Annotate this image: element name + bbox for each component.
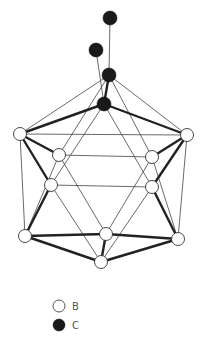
legend: B C bbox=[53, 300, 79, 331]
carbon-atom bbox=[102, 68, 116, 82]
legend-boron-label: B bbox=[72, 301, 79, 312]
carbon-atom bbox=[103, 11, 117, 25]
legend-carbon-symbol bbox=[53, 319, 65, 331]
boron-atom bbox=[172, 233, 185, 246]
boron-atom bbox=[53, 149, 66, 162]
carborane-structure-diagram: B C bbox=[0, 0, 205, 342]
carbon-atom bbox=[89, 43, 103, 57]
boron-atom bbox=[14, 128, 27, 141]
carbon-atom bbox=[97, 97, 111, 111]
boron-atom bbox=[146, 181, 159, 194]
boron-atom bbox=[146, 151, 159, 164]
legend-boron-symbol bbox=[53, 300, 65, 312]
thin-bonds bbox=[20, 18, 187, 262]
boron-atom bbox=[45, 179, 58, 192]
boron-atom bbox=[95, 256, 108, 269]
boron-atom bbox=[100, 228, 113, 241]
boron-atom bbox=[181, 129, 194, 142]
legend-carbon-label: C bbox=[72, 320, 79, 331]
boron-atom bbox=[19, 230, 32, 243]
